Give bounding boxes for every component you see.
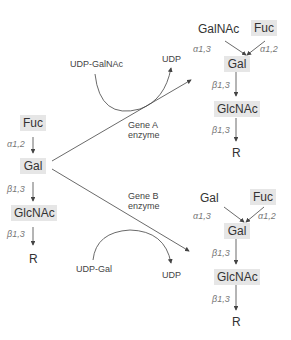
left-bond-alpha12: α1,2 xyxy=(7,139,25,149)
gene-a-line2: enzyme xyxy=(128,130,158,140)
gene-b-line1: Gene B xyxy=(128,191,158,201)
udp-b-label: UDP xyxy=(162,270,181,280)
product-a-fuc-box: Fuc xyxy=(251,20,277,36)
product-b-bond-beta13-b: β1,3 xyxy=(212,294,230,304)
left-bond-beta13-a: β1,3 xyxy=(7,184,25,194)
left-glcnac-box: GlcNAc xyxy=(11,205,57,221)
product-b-gal: Gal xyxy=(200,191,219,205)
udp-galnac-label: UDP-GalNAc xyxy=(70,59,123,69)
product-b-fuc-box: Fuc xyxy=(250,189,276,205)
product-a-bond-alpha13: α1,3 xyxy=(193,44,211,54)
product-b-gal-box: Gal xyxy=(224,223,250,239)
udp-gal-label: UDP-Gal xyxy=(76,264,112,274)
product-b-bond-alpha12: α1,2 xyxy=(258,211,276,221)
udp-a-label: UDP xyxy=(162,54,181,64)
left-fuc-box: Fuc xyxy=(20,115,46,131)
product-b-bond-alpha13: α1,3 xyxy=(193,211,211,221)
product-a-r-label: R xyxy=(232,146,241,160)
product-a-bond-beta13-a: β1,3 xyxy=(212,80,230,90)
product-b-glcnac-box: GlcNAc xyxy=(214,269,260,285)
left-gal-box: Gal xyxy=(20,158,46,174)
gene-b-line2: enzyme xyxy=(128,201,158,211)
product-b-r-label: R xyxy=(232,315,241,329)
product-a-bond-beta13-b: β1,3 xyxy=(212,125,230,135)
product-a-galnac: GalNAc xyxy=(198,22,239,36)
gene-a-line1: Gene A xyxy=(128,120,158,130)
product-a-gal-box: Gal xyxy=(224,56,250,72)
left-bond-beta13-b: β1,3 xyxy=(7,229,25,239)
product-a-glcnac-box: GlcNAc xyxy=(214,101,260,117)
product-a-bond-alpha12: α1,2 xyxy=(260,44,278,54)
gene-a-enzyme-label: Gene A enzyme xyxy=(128,120,158,140)
left-r-label: R xyxy=(29,252,38,266)
product-b-bond-beta13-a: β1,3 xyxy=(212,248,230,258)
gene-b-enzyme-label: Gene B enzyme xyxy=(128,191,158,211)
